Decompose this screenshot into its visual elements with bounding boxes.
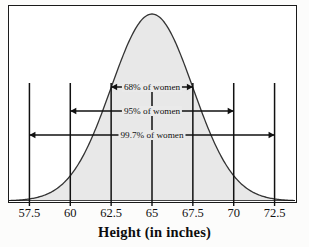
annotation-label-3sigma: 99.7% of women — [118, 130, 185, 140]
normal-distribution-figure: 57.56062.56567.57072.5 68% of women95% o… — [0, 0, 309, 247]
annotation-label-2sigma: 95% of women — [122, 106, 182, 116]
annotation-label-1sigma: 68% of women — [122, 82, 182, 92]
x-tick-label-62_5: 62.5 — [100, 206, 122, 221]
x-tick-label-72_5: 72.5 — [264, 206, 286, 221]
x-tick-label-67_5: 67.5 — [182, 206, 204, 221]
x-tick-label-60: 60 — [64, 206, 77, 221]
arrowhead-3sigma-left — [29, 132, 35, 138]
x-tick-label-57_5: 57.5 — [18, 206, 40, 221]
x-tick-label-65: 65 — [146, 206, 159, 221]
x-tick-label-70: 70 — [227, 206, 240, 221]
x-axis-title: Height (in inches) — [0, 224, 309, 241]
arrowhead-2sigma-right — [228, 108, 234, 114]
arrowhead-2sigma-left — [70, 108, 76, 114]
arrowhead-3sigma-right — [269, 132, 275, 138]
